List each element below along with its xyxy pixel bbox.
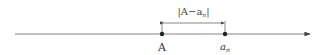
point-an-marker xyxy=(223,32,227,36)
number-line-diagram: |A−an| A an xyxy=(0,0,320,55)
point-a-marker xyxy=(160,32,164,36)
point-a-label: A xyxy=(157,41,167,54)
distance-label: |A−an| xyxy=(177,6,209,18)
diagram-canvas: |A−an| A an xyxy=(0,0,320,55)
point-an-label: an xyxy=(220,41,230,53)
